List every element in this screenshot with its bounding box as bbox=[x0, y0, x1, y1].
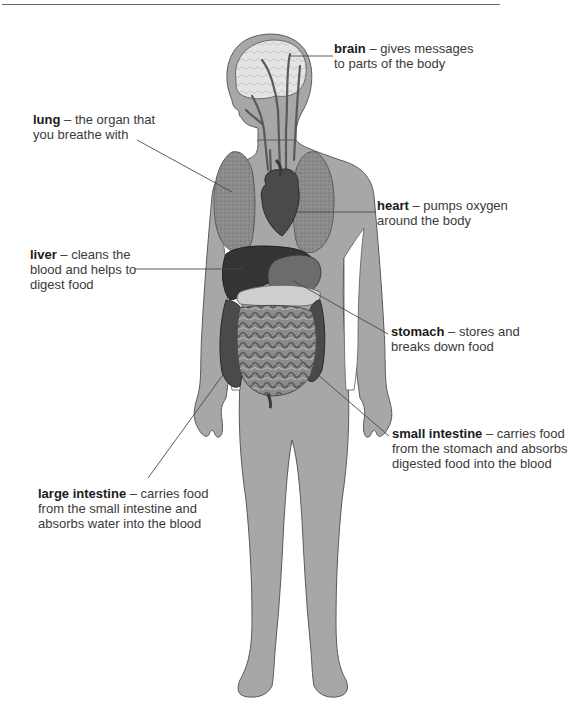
label-lung: lung – the organ that you breathe with bbox=[33, 112, 155, 142]
label-liver-term: liver bbox=[30, 247, 57, 262]
label-small-intestine: small intestine – carries food from the … bbox=[392, 426, 568, 471]
label-lung-term: lung bbox=[33, 112, 60, 127]
label-stomach: stomach – stores and breaks down food bbox=[391, 324, 520, 354]
leader-lung bbox=[137, 140, 232, 192]
label-heart: heart – pumps oxygen around the body bbox=[377, 198, 508, 228]
label-brain: brain – gives messages to parts of the b… bbox=[334, 41, 473, 71]
label-stomach-term: stomach bbox=[391, 324, 444, 339]
label-brain-term: brain bbox=[334, 41, 366, 56]
label-liver: liver – cleans the blood and helps to di… bbox=[30, 247, 136, 292]
label-large-intestine-term: large intestine bbox=[38, 486, 126, 501]
label-large-intestine: large intestine – carries food from the … bbox=[38, 486, 209, 531]
label-small-intestine-term: small intestine bbox=[392, 426, 482, 441]
human-body-figure bbox=[0, 0, 585, 719]
label-heart-term: heart bbox=[377, 198, 409, 213]
